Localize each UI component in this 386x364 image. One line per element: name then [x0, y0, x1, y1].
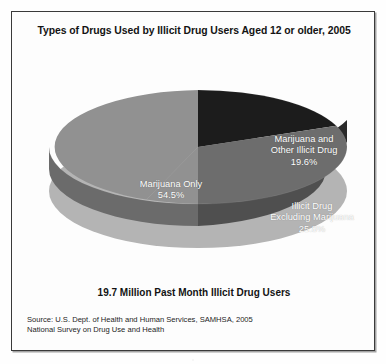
pie-chart-svg — [49, 56, 347, 278]
figure-frame: Types of Drugs Used by Illicit Drug User… — [11, 11, 375, 351]
pie-chart: Marijuana and Other Illicit Drug 19.6% I… — [49, 56, 347, 278]
page-title: Types of Drugs Used by Illicit Drug User… — [12, 25, 376, 36]
source-line-1: Source: U.S. Dept. of Health and Human S… — [27, 315, 253, 325]
figure-page: Types of Drugs Used by Illicit Drug User… — [0, 0, 386, 364]
source-line-2: National Survey on Drug Use and Health — [27, 325, 253, 335]
source-note: Source: U.S. Dept. of Health and Human S… — [27, 315, 253, 335]
chart-subtitle: 19.7 Million Past Month Illicit Drug Use… — [12, 287, 376, 298]
